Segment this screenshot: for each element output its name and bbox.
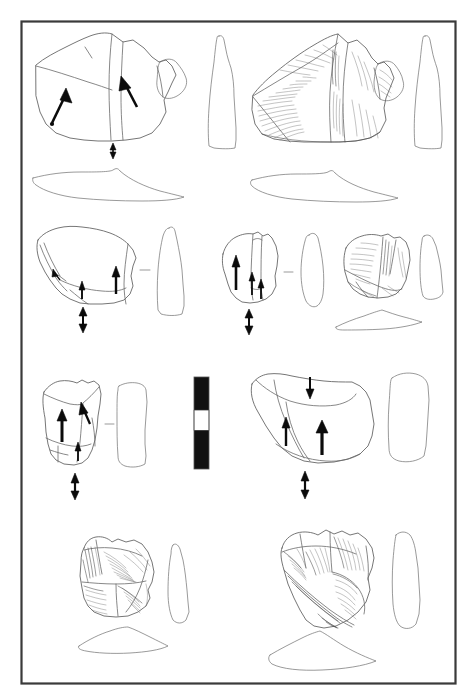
specimen-2b-outline (222, 232, 278, 303)
illustration-plate (0, 0, 473, 700)
specimen-2c-outline (344, 234, 410, 298)
scale-bar (194, 377, 209, 469)
